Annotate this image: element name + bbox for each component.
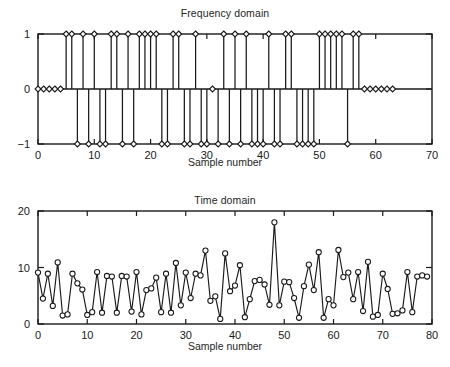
data-marker <box>204 141 210 147</box>
data-marker <box>154 275 159 280</box>
data-marker <box>187 141 193 147</box>
data-marker <box>75 281 80 286</box>
data-marker <box>153 31 159 37</box>
data-marker <box>119 273 124 278</box>
data-marker <box>104 273 109 278</box>
data-marker <box>272 220 277 225</box>
data-marker <box>238 141 244 147</box>
data-marker <box>336 247 341 252</box>
data-marker <box>326 297 331 302</box>
data-marker <box>390 311 395 316</box>
data-marker <box>424 274 429 279</box>
data-marker <box>178 303 183 308</box>
y-tick-label: −1 <box>17 138 30 150</box>
data-marker <box>321 315 326 320</box>
time-domain-xlabel: Sample number <box>0 340 450 352</box>
data-marker <box>208 298 213 303</box>
data-marker <box>400 308 405 313</box>
data-marker <box>86 141 92 147</box>
data-marker <box>168 310 173 315</box>
data-marker <box>311 288 316 293</box>
data-marker <box>306 262 311 267</box>
data-marker <box>173 260 178 265</box>
data-marker <box>125 31 131 37</box>
data-marker <box>277 303 282 308</box>
data-marker <box>405 269 410 274</box>
data-marker <box>60 313 65 318</box>
data-marker <box>95 269 100 274</box>
frequency-domain-xlabel: Sample number <box>0 156 450 168</box>
data-marker <box>103 141 109 147</box>
y-tick-label: 1 <box>24 28 30 40</box>
y-tick-label: 0 <box>24 318 30 330</box>
data-marker <box>45 271 50 276</box>
data-marker <box>262 282 267 287</box>
data-marker <box>316 250 321 255</box>
data-marker <box>277 141 283 147</box>
data-marker <box>247 297 252 302</box>
data-marker <box>223 251 228 256</box>
y-tick-label: 20 <box>18 205 30 217</box>
data-marker <box>288 31 294 37</box>
data-marker <box>139 312 144 317</box>
figure-container: Frequency domain 010203040506070−101 Sam… <box>0 0 450 367</box>
data-marker <box>119 141 125 147</box>
data-marker <box>193 31 199 37</box>
data-marker <box>296 315 301 320</box>
data-marker <box>114 310 119 315</box>
data-marker <box>341 275 346 280</box>
data-marker <box>85 312 90 317</box>
frequency-domain-plot: 010203040506070−101 <box>0 0 450 180</box>
y-tick-label: 10 <box>18 262 30 274</box>
data-marker <box>218 316 223 321</box>
data-marker <box>410 310 415 315</box>
data-marker <box>345 141 351 147</box>
data-marker <box>385 286 390 291</box>
data-marker <box>159 310 164 315</box>
data-marker <box>134 269 139 274</box>
data-marker <box>287 280 292 285</box>
data-marker <box>390 86 396 92</box>
data-marker <box>395 311 400 316</box>
data-marker <box>149 286 154 291</box>
data-marker <box>183 270 188 275</box>
data-marker <box>375 312 380 317</box>
data-marker <box>129 309 134 314</box>
data-marker <box>301 284 306 289</box>
data-marker <box>266 31 272 37</box>
data-marker <box>227 289 232 294</box>
data-marker <box>50 303 55 308</box>
data-marker <box>70 271 75 276</box>
data-marker <box>292 295 297 300</box>
time-domain-panel: Time domain 0102030405060708001020 Sampl… <box>0 180 450 367</box>
data-marker <box>356 269 361 274</box>
data-marker <box>109 274 114 279</box>
data-marker <box>252 278 257 283</box>
data-marker <box>339 31 345 37</box>
stem-series <box>35 31 396 147</box>
data-marker <box>232 283 237 288</box>
data-marker <box>242 315 247 320</box>
data-marker <box>55 260 60 265</box>
data-marker <box>420 273 425 278</box>
data-marker <box>267 302 272 307</box>
y-tick-label: 0 <box>24 83 30 95</box>
data-marker <box>221 31 227 37</box>
data-marker <box>65 312 70 317</box>
data-marker <box>99 310 104 315</box>
data-marker <box>282 279 287 284</box>
data-marker <box>365 259 370 264</box>
data-marker <box>360 308 365 313</box>
data-marker <box>331 303 336 308</box>
data-marker <box>176 31 182 37</box>
data-marker <box>80 287 85 292</box>
data-marker <box>243 31 249 37</box>
data-marker <box>203 248 208 253</box>
data-marker <box>91 31 97 37</box>
plot-frame <box>38 211 432 324</box>
data-marker <box>35 270 40 275</box>
data-marker <box>198 273 203 278</box>
data-marker <box>114 31 120 37</box>
time-domain-plot: 0102030405060708001020 <box>0 180 450 367</box>
data-marker <box>163 271 168 276</box>
